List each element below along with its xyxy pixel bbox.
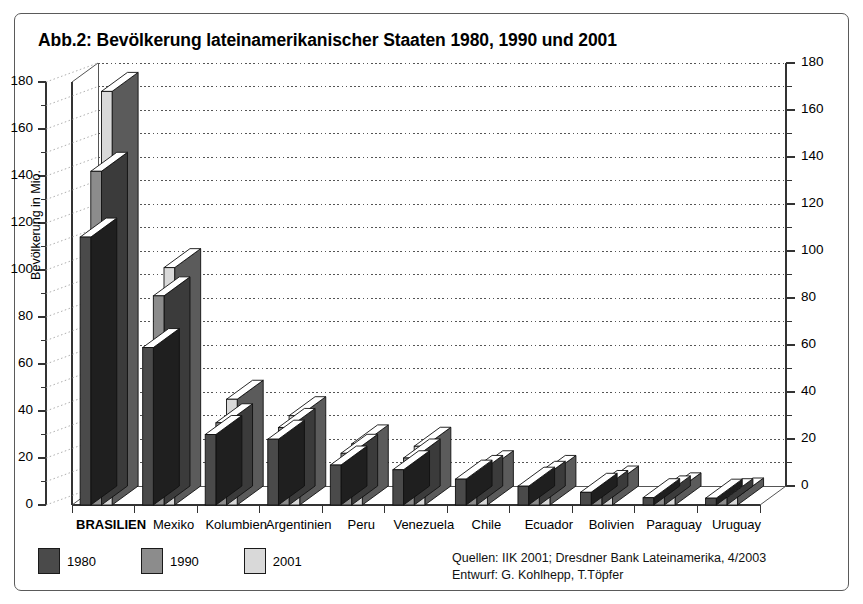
legend-swatch <box>38 548 60 574</box>
y-axis-tick-label-right: 80 <box>801 289 816 304</box>
y-axis-tick-label-right: 140 <box>801 148 824 163</box>
y-axis-tick-label-right: 160 <box>801 101 824 116</box>
figure-title: Abb.2: Bevölkerung lateinamerikanischer … <box>38 30 617 51</box>
y-axis-tick-label-right: 120 <box>801 195 824 210</box>
figure-container: Abb.2: Bevölkerung lateinamerikanischer … <box>0 0 863 604</box>
x-axis-tick-label: Argentinien <box>266 517 332 532</box>
x-axis-tick-label: Uruguay <box>712 517 761 532</box>
x-axis-tick-label: Paraguay <box>646 517 702 532</box>
y-axis-tick-label-right: 0 <box>801 477 809 492</box>
x-axis-tick-label: Mexiko <box>153 517 194 532</box>
y-axis-tick-label-left: 40 <box>0 402 33 417</box>
x-axis-tick-label: Ecuador <box>525 517 573 532</box>
y-axis-tick-label-left: 100 <box>0 261 33 276</box>
legend-entry: 1990 <box>141 548 199 574</box>
y-axis-tick-label-left: 60 <box>0 355 33 370</box>
x-axis-tick-label: Bolivien <box>589 517 635 532</box>
chart-legend: 198019902001 <box>38 548 338 574</box>
y-axis-tick-label-left: 140 <box>0 167 33 182</box>
legend-label: 2001 <box>273 554 302 569</box>
figure-border <box>14 13 849 591</box>
x-axis-tick-label: Kolumbien <box>205 517 266 532</box>
y-axis-tick-label-right: 180 <box>801 54 824 69</box>
legend-label: 1990 <box>170 554 199 569</box>
y-axis-tick-label-left: 160 <box>0 120 33 135</box>
source-line-quellen: Quellen: IIK 2001; Dresdner Bank Lateina… <box>452 550 766 567</box>
legend-swatch <box>141 548 163 574</box>
y-axis-tick-label-right: 60 <box>801 336 816 351</box>
legend-label: 1980 <box>67 554 96 569</box>
y-axis-tick-label-left: 80 <box>0 308 33 323</box>
source-note: Quellen: IIK 2001; Dresdner Bank Lateina… <box>452 550 766 584</box>
y-axis-tick-label-left: 120 <box>0 214 33 229</box>
source-line-entwurf: Entwurf: G. Kohlhepp, T.Töpfer <box>452 567 766 584</box>
y-axis-tick-label-left: 180 <box>0 73 33 88</box>
y-axis-tick-label-left: 20 <box>0 449 33 464</box>
y-axis-tick-label-right: 20 <box>801 430 816 445</box>
legend-swatch <box>244 548 266 574</box>
y-axis-tick-label-left: 0 <box>0 496 33 511</box>
x-axis-tick-label: Venezuela <box>393 517 454 532</box>
y-axis-tick-label-right: 40 <box>801 383 816 398</box>
legend-entry: 2001 <box>244 548 302 574</box>
x-axis-tick-label: Peru <box>348 517 375 532</box>
legend-entry: 1980 <box>38 548 96 574</box>
y-axis-tick-label-right: 100 <box>801 242 824 257</box>
x-axis-tick-label: Chile <box>472 517 502 532</box>
x-axis-tick-label: BRASILIEN <box>76 517 146 532</box>
